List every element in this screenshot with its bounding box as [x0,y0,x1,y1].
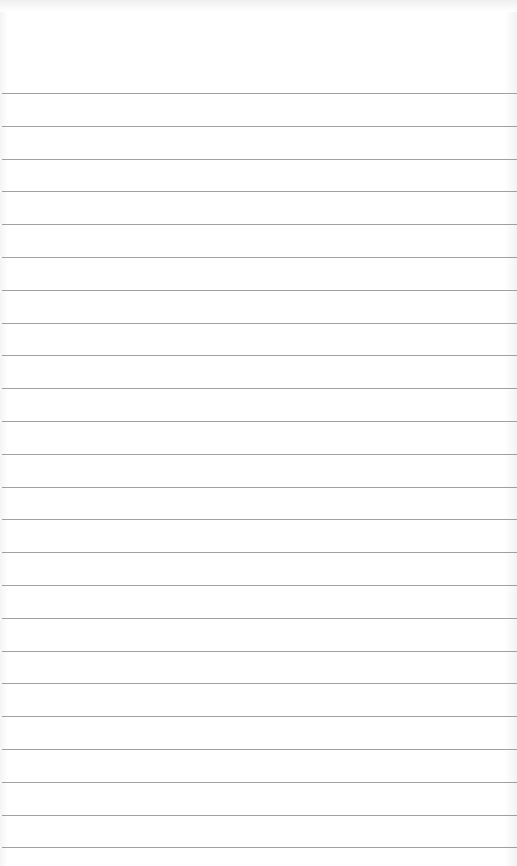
ruled-line [2,683,517,684]
ruled-line [2,618,517,619]
paper-top-edge [0,0,517,12]
ruled-line [2,126,517,127]
ruled-line [2,782,517,783]
ruled-line [2,847,517,848]
ruled-line [2,716,517,717]
ruled-line [2,651,517,652]
ruled-line [2,552,517,553]
ruled-line [2,224,517,225]
ruled-line [2,519,517,520]
ruled-line [2,257,517,258]
ruled-line [2,159,517,160]
ruled-line [2,585,517,586]
ruled-line [2,290,517,291]
ruled-line [2,487,517,488]
ruled-line [2,749,517,750]
ruled-line [2,454,517,455]
ruled-line [2,815,517,816]
ruled-line [2,388,517,389]
ruled-line [2,355,517,356]
ruled-line [2,93,517,94]
ruled-line [2,191,517,192]
ruled-line [2,323,517,324]
lined-paper-sheet [0,0,517,866]
ruled-line [2,421,517,422]
